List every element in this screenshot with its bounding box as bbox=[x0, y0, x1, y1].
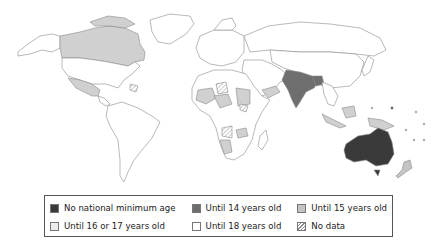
swatch-pale-gray-icon bbox=[50, 222, 59, 231]
region-southern-africa-nodata bbox=[222, 126, 232, 138]
region-south-america bbox=[106, 102, 160, 182]
legend-item-no-minimum-age: No national minimum age bbox=[50, 203, 192, 213]
legend-item-until-16-17: Until 16 or 17 years old bbox=[50, 221, 192, 231]
legend-label: No national minimum age bbox=[64, 203, 176, 213]
legend-item-no-data: No data bbox=[297, 221, 392, 231]
region-pacific-island bbox=[415, 111, 417, 113]
legend-row: No national minimum age Until 14 years o… bbox=[50, 199, 392, 217]
region-indonesia bbox=[322, 114, 346, 128]
legend-label: No data bbox=[311, 221, 345, 231]
region-pacific-island bbox=[391, 107, 393, 109]
region-sudan bbox=[236, 88, 250, 106]
swatch-white-icon bbox=[192, 222, 201, 231]
region-new-zealand bbox=[396, 160, 412, 178]
region-africa-nodata-1 bbox=[216, 82, 228, 94]
region-russia bbox=[244, 22, 386, 56]
swatch-dark-icon bbox=[50, 204, 59, 213]
swatch-light-gray-icon bbox=[297, 204, 306, 213]
legend: No national minimum age Until 14 years o… bbox=[44, 195, 393, 237]
region-central-america bbox=[98, 96, 110, 106]
legend-item-until-15: Until 15 years old bbox=[297, 203, 392, 213]
region-pacific-island bbox=[371, 107, 373, 109]
region-namibia bbox=[220, 140, 232, 154]
legend-label: Until 15 years old bbox=[311, 203, 387, 213]
region-pacific-island bbox=[423, 139, 425, 141]
region-alaska bbox=[18, 34, 60, 56]
legend-label: Until 14 years old bbox=[206, 203, 282, 213]
legend-label: Until 16 or 17 years old bbox=[64, 221, 165, 231]
region-arctic-islands bbox=[90, 16, 135, 28]
region-pacific-island bbox=[405, 129, 407, 131]
legend-row: Until 16 or 17 years old Until 18 years … bbox=[50, 217, 392, 235]
legend-item-until-14: Until 14 years old bbox=[192, 203, 298, 213]
swatch-mid-gray-icon bbox=[192, 204, 201, 213]
world-map bbox=[0, 0, 442, 192]
legend-item-until-18: Until 18 years old bbox=[192, 221, 298, 231]
region-madagascar bbox=[258, 130, 268, 150]
swatch-hatched-icon bbox=[297, 222, 306, 231]
legend-label: Until 18 years old bbox=[206, 221, 282, 231]
region-europe bbox=[196, 30, 244, 66]
region-greenland bbox=[150, 14, 194, 44]
region-tasmania bbox=[374, 170, 380, 176]
region-pacific-island bbox=[413, 139, 415, 141]
region-pacific-island bbox=[423, 123, 425, 125]
region-zambia bbox=[236, 128, 248, 138]
region-japan bbox=[362, 56, 374, 76]
region-scandinavia bbox=[214, 18, 236, 30]
region-caribbean bbox=[130, 84, 138, 92]
region-png bbox=[368, 118, 394, 130]
region-borneo bbox=[342, 106, 356, 118]
region-australia bbox=[344, 128, 394, 166]
